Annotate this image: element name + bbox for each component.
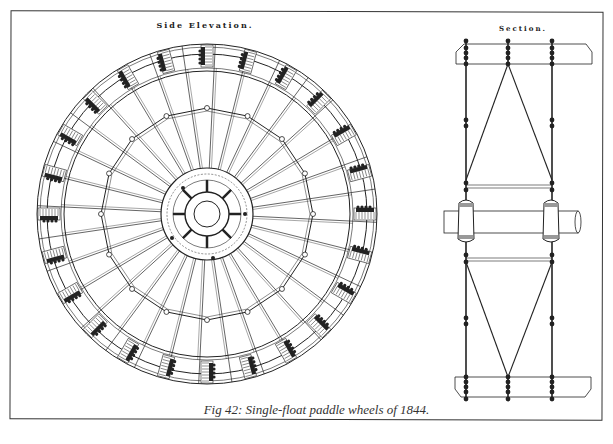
figure-caption: Fig 42: Single-float paddle wheels of 18… — [0, 402, 613, 418]
side-elevation-view — [37, 44, 377, 384]
section-view — [444, 39, 592, 402]
paddle-wheel-drawing — [0, 0, 613, 444]
